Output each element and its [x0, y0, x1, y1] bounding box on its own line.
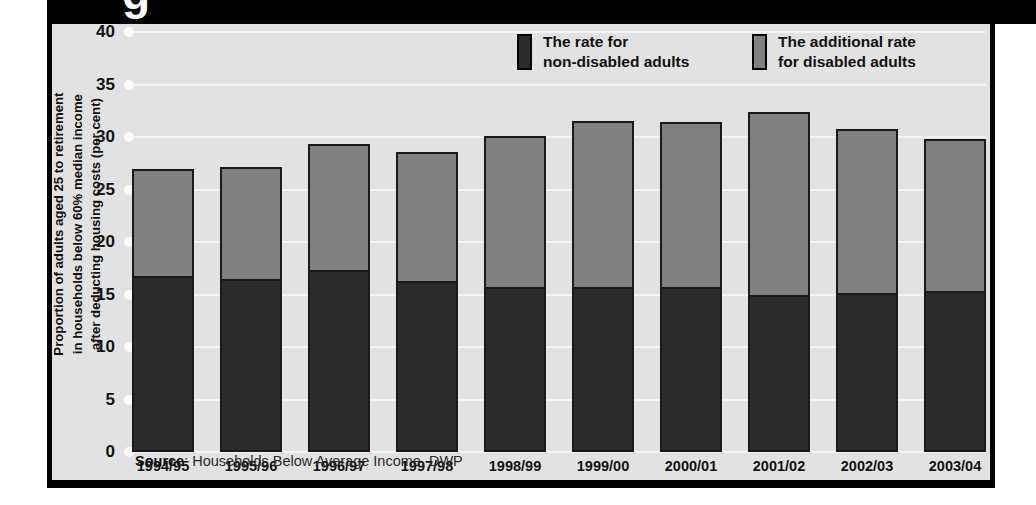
bar-segment-non-disabled: [310, 270, 368, 450]
bar-stack: [220, 167, 282, 452]
bar-layer: [124, 32, 986, 452]
bar-segment-disabled: [926, 141, 984, 291]
bar-segment-non-disabled: [662, 287, 720, 450]
y-axis-tick-label: 15: [96, 285, 115, 305]
bar-segment-disabled: [574, 123, 632, 287]
y-axis-tick-label: 35: [96, 75, 115, 95]
bar-segment-disabled: [750, 114, 808, 296]
bar-stack: [308, 144, 370, 452]
source-note: Source: Households Below Average Income,…: [135, 453, 463, 469]
x-axis-tick-label: 2003/04: [924, 458, 986, 474]
bar-segment-non-disabled: [222, 279, 280, 450]
source-text: : Households Below Average Income, DWP: [184, 453, 463, 469]
bar-stack: [396, 152, 458, 452]
plot-area: 0510152025303540: [124, 32, 986, 452]
bar-stack: [572, 121, 634, 452]
y-axis-tick-label: 10: [96, 337, 115, 357]
bar-segment-disabled: [398, 154, 456, 281]
bar-stack: [836, 129, 898, 452]
chart-figure: g The rate for non-disabled adults The a…: [0, 0, 1036, 505]
x-axis-tick-label: 2000/01: [660, 458, 722, 474]
y-axis-tick-label: 25: [96, 180, 115, 200]
y-axis-tick-label: 0: [106, 442, 115, 462]
bar-segment-disabled: [134, 171, 192, 276]
x-axis-tick-label: 1998/99: [484, 458, 546, 474]
bar-segment-disabled: [662, 124, 720, 287]
bar-stack: [924, 139, 986, 452]
bar-stack: [132, 169, 194, 453]
bar-segment-non-disabled: [750, 295, 808, 450]
y-axis-tick-label: 20: [96, 232, 115, 252]
bar-segment-non-disabled: [838, 293, 896, 450]
bar-segment-disabled: [838, 131, 896, 294]
y-axis-tick-label: 40: [96, 22, 115, 42]
bar-segment-non-disabled: [486, 287, 544, 450]
bar-stack: [660, 122, 722, 452]
x-axis-tick-label: 2001/02: [748, 458, 810, 474]
source-prefix: Source: [135, 453, 184, 469]
bar-segment-disabled: [222, 169, 280, 278]
y-axis-tick-label: 30: [96, 127, 115, 147]
y-axis-tick-label: 5: [106, 390, 115, 410]
bar-segment-non-disabled: [398, 281, 456, 450]
bar-stack: [748, 112, 810, 452]
bar-segment-non-disabled: [134, 276, 192, 451]
bar-segment-disabled: [310, 146, 368, 270]
figure-title: g: [122, 0, 150, 20]
bar-stack: [484, 136, 546, 452]
bar-segment-disabled: [486, 138, 544, 287]
bar-segment-non-disabled: [926, 291, 984, 450]
chart-panel: The rate for non-disabled adults The add…: [47, 24, 995, 488]
x-axis-tick-label: 2002/03: [836, 458, 898, 474]
bar-segment-non-disabled: [574, 287, 632, 450]
header-bar: g: [47, 0, 1036, 24]
x-axis-tick-label: 1999/00: [572, 458, 634, 474]
